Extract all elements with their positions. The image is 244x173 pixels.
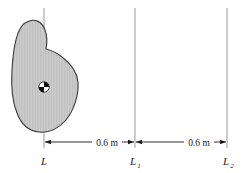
axis-label-L1-subscript: 1 <box>137 162 141 170</box>
rigid-body-outline <box>12 20 78 132</box>
figure-canvas: 0.6 m 0.6 m L L 1 L 2 <box>0 0 244 173</box>
dimension-label-1: 0.6 m <box>96 138 118 148</box>
rigid-body-shape <box>12 20 78 132</box>
center-of-mass-icon <box>39 82 49 92</box>
dimension-label-2: 0.6 m <box>188 138 210 148</box>
axis-labels: L L 1 L 2 <box>40 155 234 170</box>
dimension-0-6-m-second: 0.6 m <box>136 138 226 148</box>
dimension-0-6-m-first: 0.6 m <box>45 138 134 148</box>
axis-label-L: L <box>40 155 47 167</box>
axis-label-L2-subscript: 2 <box>230 162 234 170</box>
axis-label-L1: L <box>129 155 136 167</box>
axis-label-L2: L <box>222 155 229 167</box>
